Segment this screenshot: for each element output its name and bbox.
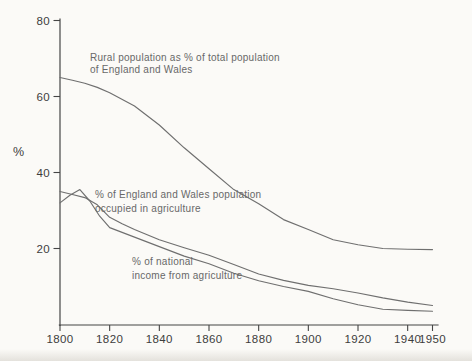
- annotation-line: % of national: [132, 255, 242, 269]
- x-tick-label: 1880: [245, 333, 272, 345]
- annotation-occupied-in-agriculture: % of England and Wales population occupi…: [95, 188, 261, 216]
- x-ticks: 180018201840186018801900192019401950: [46, 325, 446, 345]
- x-tick-label: 1900: [295, 333, 322, 345]
- x-tick-label: 1820: [96, 333, 123, 345]
- annotation-line: % of England and Wales population: [95, 188, 261, 202]
- x-tick-label: 1950: [419, 333, 446, 345]
- annotation-rural-population: Rural population as % of total populatio…: [90, 52, 280, 75]
- y-tick-label: 40: [36, 167, 50, 179]
- x-axis: 180018201840186018801900192019401950: [46, 325, 446, 345]
- annotation-income-from-agriculture: % of national income from agriculture: [132, 255, 242, 283]
- y-tick-label: 60: [36, 91, 50, 103]
- annotation-line: of England and Wales: [90, 64, 280, 76]
- y-tick-label: 20: [36, 243, 50, 255]
- scanned-chart-page: 20406080 % 18001820184018601880190019201…: [0, 0, 472, 361]
- y-axis-label: %: [13, 145, 24, 159]
- x-tick-label: 1940: [394, 333, 421, 345]
- y-axis: 20406080 %: [13, 15, 60, 326]
- x-tick-label: 1860: [195, 333, 222, 345]
- y-tick-label: 80: [36, 15, 50, 27]
- x-tick-label: 1800: [46, 333, 73, 345]
- annotation-line: Rural population as % of total populatio…: [90, 52, 280, 64]
- annotation-line: occupied in agriculture: [95, 202, 261, 216]
- x-tick-label: 1840: [146, 333, 173, 345]
- x-tick-label: 1920: [344, 333, 371, 345]
- series-line-0: [60, 78, 433, 250]
- annotation-line: income from agriculture: [132, 269, 242, 283]
- y-ticks: 20406080: [36, 15, 60, 255]
